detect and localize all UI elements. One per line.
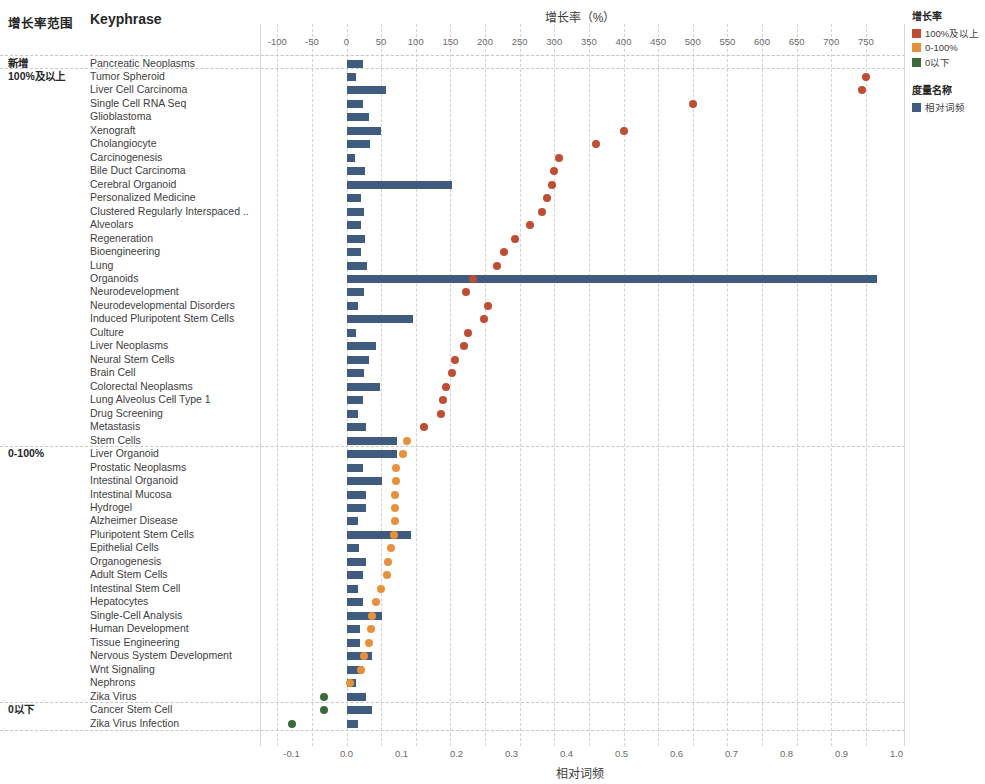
growth-rate-dot[interactable] xyxy=(320,693,328,701)
table-row[interactable]: Bioengineering xyxy=(0,245,905,258)
table-row[interactable]: Zika Virus Infection xyxy=(0,717,905,730)
growth-rate-dot[interactable] xyxy=(391,517,399,525)
frequency-bar[interactable] xyxy=(347,477,382,485)
table-row[interactable]: Clustered Regularly Interspaced .. xyxy=(0,205,905,218)
frequency-bar[interactable] xyxy=(347,262,367,270)
table-row[interactable]: Lung xyxy=(0,259,905,272)
frequency-bar[interactable] xyxy=(347,504,367,512)
frequency-bar[interactable] xyxy=(347,612,382,620)
frequency-bar[interactable] xyxy=(347,302,359,310)
frequency-bar[interactable] xyxy=(347,288,365,296)
growth-rate-dot[interactable] xyxy=(320,706,328,714)
table-row[interactable]: Metastasis xyxy=(0,420,905,433)
growth-rate-dot[interactable] xyxy=(526,221,534,229)
frequency-bar[interactable] xyxy=(347,208,364,216)
table-row[interactable]: Alveolars xyxy=(0,218,905,231)
growth-rate-dot[interactable] xyxy=(367,625,375,633)
table-row[interactable]: Epithelial Cells xyxy=(0,541,905,554)
table-row[interactable]: Induced Pluripotent Stem Cells xyxy=(0,312,905,325)
frequency-bar[interactable] xyxy=(347,464,364,472)
growth-rate-dot[interactable] xyxy=(543,194,551,202)
table-row[interactable]: Lung Alveolus Cell Type 1 xyxy=(0,393,905,406)
frequency-bar[interactable] xyxy=(347,410,358,418)
legend-growth-item[interactable]: 100%及以上 xyxy=(912,26,985,40)
legend-growth-item[interactable]: 0-100% xyxy=(912,42,985,53)
frequency-bar[interactable] xyxy=(347,100,364,108)
frequency-bar[interactable] xyxy=(347,639,360,647)
growth-rate-dot[interactable] xyxy=(858,86,866,94)
table-row[interactable]: Hydrogel xyxy=(0,501,905,514)
growth-rate-dot[interactable] xyxy=(480,315,488,323)
table-row[interactable]: Nervous System Development xyxy=(0,649,905,662)
growth-rate-dot[interactable] xyxy=(368,612,376,620)
table-row[interactable]: Culture xyxy=(0,326,905,339)
growth-rate-dot[interactable] xyxy=(862,73,870,81)
table-row[interactable]: Hepatocytes xyxy=(0,595,905,608)
frequency-bar[interactable] xyxy=(347,315,413,323)
growth-rate-dot[interactable] xyxy=(689,100,697,108)
frequency-bar[interactable] xyxy=(347,720,359,728)
frequency-bar[interactable] xyxy=(347,369,365,377)
growth-rate-dot[interactable] xyxy=(493,262,501,270)
growth-rate-dot[interactable] xyxy=(511,235,519,243)
table-row[interactable]: Intestinal Organoid xyxy=(0,474,905,487)
growth-rate-dot[interactable] xyxy=(437,410,445,418)
frequency-bar[interactable] xyxy=(347,706,372,714)
growth-rate-dot[interactable] xyxy=(620,127,628,135)
table-row[interactable]: Neurodevelopment xyxy=(0,285,905,298)
growth-rate-dot[interactable] xyxy=(464,329,472,337)
table-row[interactable]: Cholangiocyte xyxy=(0,137,905,150)
frequency-bar[interactable] xyxy=(347,235,366,243)
growth-rate-dot[interactable] xyxy=(550,167,558,175)
growth-rate-dot[interactable] xyxy=(420,423,428,431)
frequency-bar[interactable] xyxy=(347,248,361,256)
frequency-bar[interactable] xyxy=(347,625,360,633)
growth-rate-dot[interactable] xyxy=(451,356,459,364)
growth-rate-dot[interactable] xyxy=(357,666,365,674)
frequency-bar[interactable] xyxy=(347,73,357,81)
frequency-bar[interactable] xyxy=(347,517,359,525)
frequency-bar[interactable] xyxy=(347,693,367,701)
frequency-bar[interactable] xyxy=(347,598,364,606)
frequency-bar[interactable] xyxy=(347,437,398,445)
frequency-bar[interactable] xyxy=(347,194,362,202)
table-row[interactable]: Tumor Spheroid xyxy=(0,70,905,83)
frequency-bar[interactable] xyxy=(347,396,364,404)
growth-rate-dot[interactable] xyxy=(403,437,411,445)
frequency-bar[interactable] xyxy=(347,491,366,499)
table-row[interactable]: Pluripotent Stem Cells xyxy=(0,528,905,541)
growth-rate-dot[interactable] xyxy=(392,477,400,485)
table-row[interactable]: Neural Stem Cells xyxy=(0,353,905,366)
table-row[interactable]: Regeneration xyxy=(0,232,905,245)
frequency-bar[interactable] xyxy=(347,154,355,162)
growth-rate-dot[interactable] xyxy=(500,248,508,256)
growth-rate-dot[interactable] xyxy=(392,464,400,472)
table-row[interactable]: Single Cell RNA Seq xyxy=(0,97,905,110)
frequency-bar[interactable] xyxy=(347,544,359,552)
growth-rate-dot[interactable] xyxy=(399,450,407,458)
table-row[interactable]: Adult Stem Cells xyxy=(0,568,905,581)
growth-rate-dot[interactable] xyxy=(383,571,391,579)
table-row[interactable]: Cancer Stem Cell xyxy=(0,703,905,716)
frequency-bar[interactable] xyxy=(347,342,377,350)
frequency-bar[interactable] xyxy=(347,585,358,593)
growth-rate-dot[interactable] xyxy=(288,720,296,728)
growth-rate-dot[interactable] xyxy=(592,140,600,148)
table-row[interactable]: Intestinal Stem Cell xyxy=(0,582,905,595)
table-row[interactable]: Wnt Signaling xyxy=(0,663,905,676)
frequency-bar[interactable] xyxy=(347,113,370,121)
frequency-bar[interactable] xyxy=(347,167,365,175)
table-row[interactable]: Bile Duct Carcinoma xyxy=(0,164,905,177)
frequency-bar[interactable] xyxy=(347,140,371,148)
table-row[interactable]: Neurodevelopmental Disorders xyxy=(0,299,905,312)
growth-rate-dot[interactable] xyxy=(377,585,385,593)
growth-rate-dot[interactable] xyxy=(484,302,492,310)
table-row[interactable]: Nephrons xyxy=(0,676,905,689)
frequency-bar[interactable] xyxy=(347,450,398,458)
growth-rate-dot[interactable] xyxy=(462,288,470,296)
growth-rate-dot[interactable] xyxy=(439,396,447,404)
growth-rate-dot[interactable] xyxy=(372,598,380,606)
growth-rate-dot[interactable] xyxy=(365,639,373,647)
table-row[interactable]: Xenograft xyxy=(0,124,905,137)
growth-rate-dot[interactable] xyxy=(360,652,368,660)
